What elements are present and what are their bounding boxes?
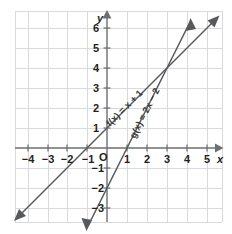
y-tick-label: 3 bbox=[93, 82, 99, 94]
y-tick-label: −3 bbox=[91, 202, 104, 214]
x-tick-label: 5 bbox=[204, 153, 210, 165]
x-tick-label: 1 bbox=[124, 153, 130, 165]
x-tick-label: 2 bbox=[144, 153, 150, 165]
y-tick-label: 1 bbox=[93, 122, 99, 134]
y-tick-label: 2 bbox=[93, 102, 99, 114]
x-tick-label: 4 bbox=[184, 153, 191, 165]
graph-figure: −4 −3 −2 −1 1 2 3 4 5 6 5 4 3 2 1 −1 −2 … bbox=[0, 0, 232, 234]
y-axis-tick-labels: 6 5 4 3 2 1 −1 −2 −3 bbox=[91, 22, 104, 214]
y-tick-label: 4 bbox=[93, 62, 100, 74]
x-tick-label: 3 bbox=[164, 153, 170, 165]
line-g-arrow-bottom-icon bbox=[82, 218, 93, 231]
y-axis-label: y bbox=[96, 12, 104, 24]
y-tick-label: −1 bbox=[91, 162, 104, 174]
coordinate-plane: −4 −3 −2 −1 1 2 3 4 5 6 5 4 3 2 1 −1 −2 … bbox=[0, 0, 232, 234]
x-axis-tick-labels: −4 −3 −2 −1 1 2 3 4 5 bbox=[22, 153, 210, 165]
origin-label: O bbox=[99, 151, 108, 163]
x-tick-label: −2 bbox=[61, 153, 74, 165]
x-tick-label: −4 bbox=[22, 153, 35, 165]
y-tick-label: −2 bbox=[91, 182, 104, 194]
x-axis-label: x bbox=[216, 153, 224, 165]
x-tick-label: −3 bbox=[42, 153, 55, 165]
y-tick-label: 5 bbox=[93, 42, 99, 54]
